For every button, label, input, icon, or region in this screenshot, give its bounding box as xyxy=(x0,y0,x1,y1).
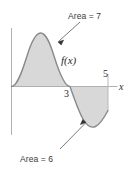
x-tick-label-3: 3 xyxy=(64,89,69,99)
x-axis-label: x xyxy=(119,82,123,92)
lower-area-leader xyxy=(60,120,86,149)
upper-area-annotation: Area = 7 xyxy=(68,12,101,21)
lower-area-annotation: Area = 6 xyxy=(20,155,53,164)
x-tick-label-5: 5 xyxy=(103,69,108,79)
area-under-curve-figure: Area = 7 Area = 6 f(x) 3 5 x xyxy=(0,0,132,175)
function-label: f(x) xyxy=(61,55,76,66)
upper-area-leader xyxy=(58,22,80,45)
